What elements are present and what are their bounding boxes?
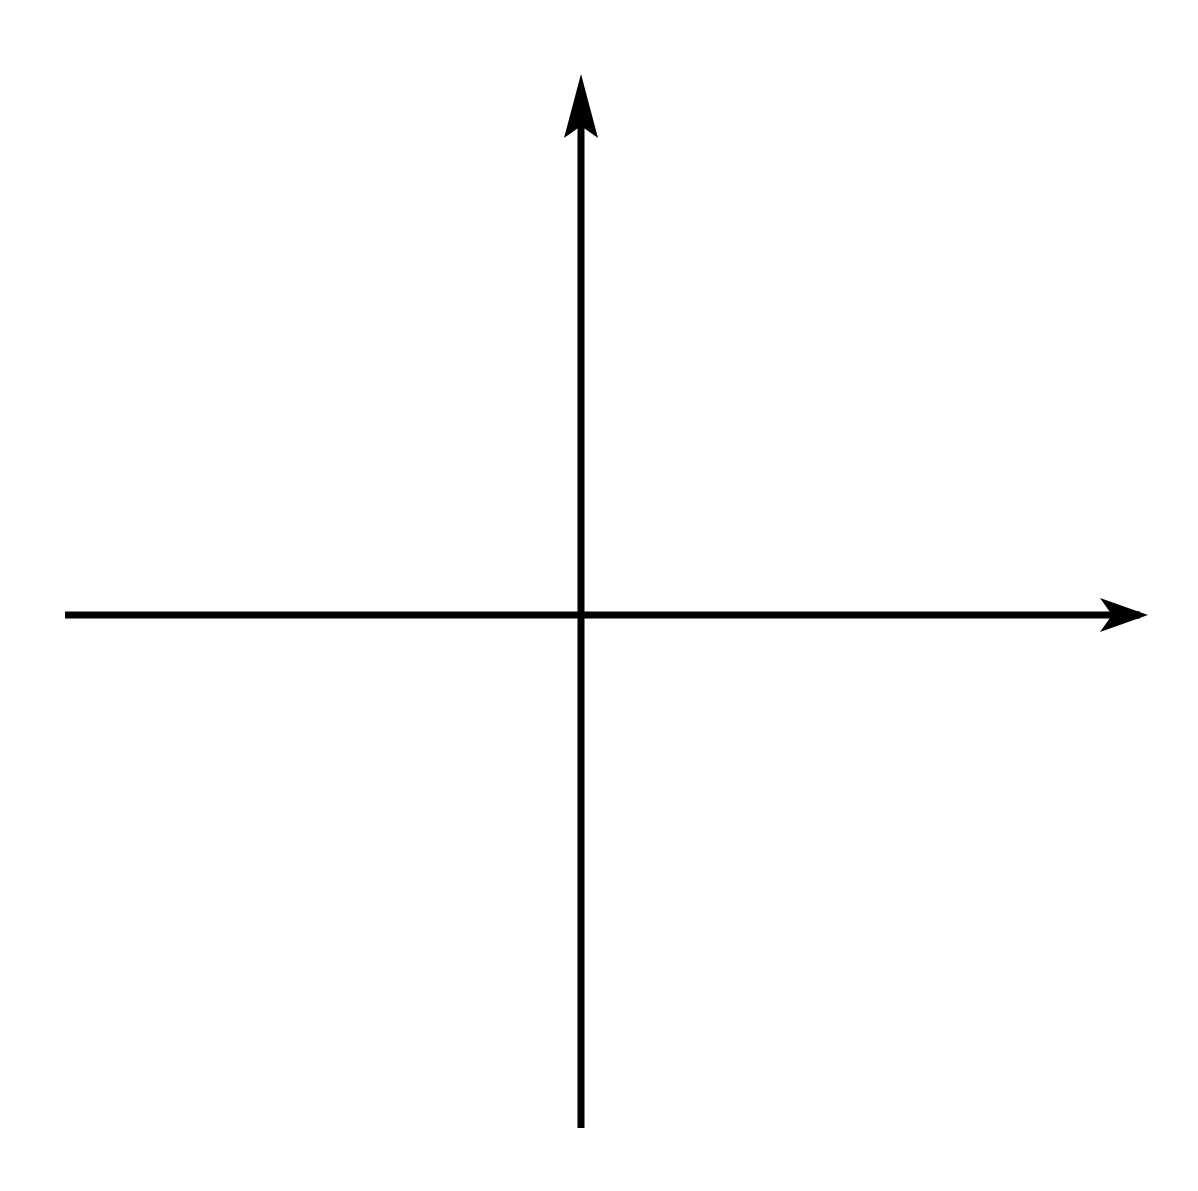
coordinate-plane-figure	[0, 0, 1198, 1191]
coordinate-plane-canvas	[0, 0, 1198, 1191]
